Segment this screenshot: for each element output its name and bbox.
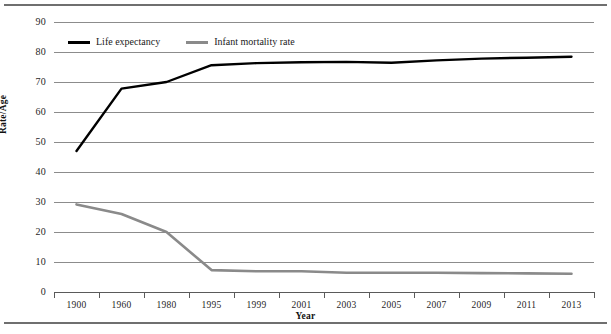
x-axis-tick (504, 292, 505, 298)
chart-page: 0102030405060708090 Rate/Age 19001960198… (0, 0, 611, 334)
legend-color-swatch (68, 41, 90, 44)
x-axis-tick (279, 292, 280, 298)
y-axis-tick-label: 90 (36, 17, 46, 27)
x-axis-tick-label: 2009 (472, 300, 492, 310)
x-axis-tick-label: 1900 (67, 300, 87, 310)
x-axis-tick (369, 292, 370, 298)
x-axis-tick-label: 2005 (382, 300, 402, 310)
x-axis-tick (549, 292, 550, 298)
x-axis-tick-label: 2011 (517, 300, 536, 310)
y-axis-tick-label: 0 (41, 287, 46, 297)
y-axis-tick-label: 80 (36, 47, 46, 57)
legend-label: Life expectancy (96, 36, 160, 48)
y-axis-tick-label: 70 (36, 77, 46, 87)
x-axis-tick (594, 292, 595, 298)
x-axis-tick-label: 2003 (337, 300, 357, 310)
x-axis-tick (54, 292, 55, 298)
x-axis-tick (414, 292, 415, 298)
x-axis-tick-label: 1960 (112, 300, 132, 310)
y-axis-tick-labels: 0102030405060708090 (0, 22, 54, 292)
top-divider-rule (4, 4, 607, 6)
x-axis-tick-label: 2013 (562, 300, 582, 310)
x-axis-tick-label: 2007 (427, 300, 447, 310)
x-axis-tick-label: 1980 (157, 300, 177, 310)
plot-area (54, 22, 594, 292)
x-axis-tick (324, 292, 325, 298)
x-axis-tick (189, 292, 190, 298)
y-axis-title: Rate/Age (0, 95, 8, 134)
line-chart: 0102030405060708090 Rate/Age 19001960198… (0, 8, 611, 320)
legend-item[interactable]: Infant mortality rate (186, 36, 295, 48)
legend-color-swatch (186, 41, 208, 44)
x-axis-tick-label: 2001 (292, 300, 312, 310)
x-axis-tick (234, 292, 235, 298)
y-axis-tick-label: 50 (36, 137, 46, 147)
series-line (77, 57, 572, 151)
x-axis-tick (144, 292, 145, 298)
x-axis-tick-label: 1999 (247, 300, 267, 310)
x-axis-title: Year (0, 311, 611, 321)
x-axis-tick (459, 292, 460, 298)
y-axis-tick-label: 30 (36, 197, 46, 207)
x-axis-tick (99, 292, 100, 298)
y-axis-tick-label: 40 (36, 167, 46, 177)
chart-legend: Life expectancyInfant mortality rate (68, 36, 295, 48)
y-axis-tick-label: 10 (36, 257, 46, 267)
legend-label: Infant mortality rate (214, 36, 295, 48)
x-axis-tick-label: 1995 (202, 300, 222, 310)
y-axis-tick-label: 60 (36, 107, 46, 117)
legend-item[interactable]: Life expectancy (68, 36, 160, 48)
y-axis-tick-label: 20 (36, 227, 46, 237)
bottom-divider-rule (4, 322, 607, 324)
series-lines (54, 22, 594, 292)
series-line (77, 204, 572, 273)
